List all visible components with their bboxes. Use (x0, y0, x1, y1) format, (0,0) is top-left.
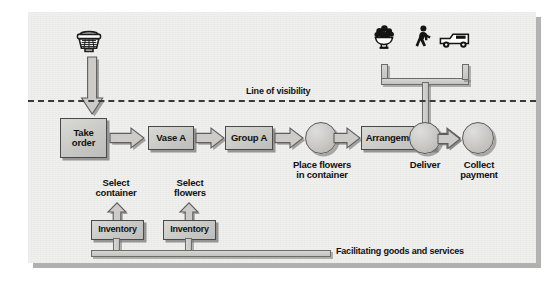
canvas-bottom-strip (33, 264, 541, 268)
diagram-canvas: Line of visibility Take order Vase A Gro… (28, 12, 536, 263)
node-group-a[interactable]: Group A (225, 126, 273, 150)
arrow-telephone-to-take-order (78, 54, 104, 116)
node-inventory-container[interactable]: Inventory (91, 220, 144, 240)
node-place-flowers-label: Place flowers in container (286, 160, 358, 181)
arrow-take-order-to-vase-a (110, 126, 146, 150)
node-inventory-container-label: Inventory (98, 225, 137, 234)
node-inventory-flowers-label: Inventory (170, 225, 209, 234)
label-facilitating-goods: Facilitating goods and services (336, 246, 464, 256)
diagram-stage: Line of visibility Take order Vase A Gro… (0, 0, 553, 290)
node-take-order[interactable]: Take order (60, 118, 107, 158)
flower-bowl-icon (371, 24, 397, 58)
line-of-visibility-label: Line of visibility (246, 86, 310, 96)
node-place-flowers[interactable] (305, 122, 337, 154)
arrow-group-a-to-place-flowers (275, 126, 305, 150)
walking-person-icon (413, 25, 433, 57)
node-deliver[interactable] (409, 122, 441, 154)
line-of-visibility (28, 100, 536, 102)
node-inventory-flowers[interactable]: Inventory (163, 220, 216, 240)
node-take-order-label: Take order (61, 128, 106, 148)
delivery-van-icon (438, 30, 472, 56)
node-group-a-label: Group A (231, 133, 267, 143)
node-deliver-label: Deliver (395, 160, 455, 170)
label-select-container: Select container (86, 178, 146, 199)
node-vase-a[interactable]: Vase A (148, 126, 194, 150)
node-collect-payment[interactable] (462, 122, 494, 154)
node-collect-payment-label: Collect payment (448, 160, 510, 181)
arrow-deliver-to-collect-payment (438, 128, 462, 150)
label-select-flowers: Select flowers (162, 178, 218, 199)
arrow-place-flowers-to-arrangement-a (334, 126, 362, 150)
arrow-vase-a-to-group-a (196, 126, 226, 150)
facilitating-goods-bus (91, 250, 331, 257)
pipe-van-drop (462, 64, 469, 80)
node-vase-a-label: Vase A (156, 133, 186, 143)
